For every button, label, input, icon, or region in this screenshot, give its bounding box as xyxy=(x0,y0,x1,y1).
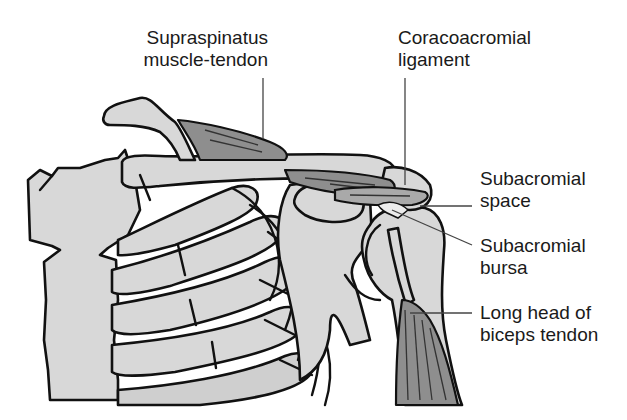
label-subacromial-bursa: Subacromial bursa xyxy=(480,235,586,279)
shoulder-anatomy-diagram: Supraspinatus muscle-tendon Coracoacromi… xyxy=(0,0,627,420)
label-supraspinatus: Supraspinatus muscle-tendon xyxy=(137,27,268,71)
label-subacromial-space: Subacromial space xyxy=(480,168,586,212)
label-coracoacromial-ligament: Coracoacromial ligament xyxy=(398,27,531,71)
label-biceps-tendon: Long head of biceps tendon xyxy=(480,302,598,346)
coracoacromial-ligament xyxy=(335,187,428,205)
